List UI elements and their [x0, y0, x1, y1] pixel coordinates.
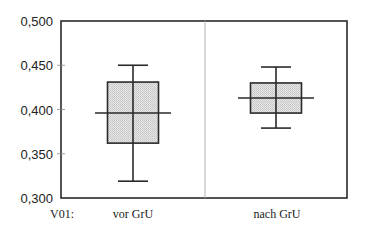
y-tick-label: 0,500 [20, 14, 53, 29]
box-nach-gru [238, 67, 314, 128]
category-label: vor GrU [113, 207, 154, 221]
y-tick-label: 0,400 [20, 103, 53, 118]
box-vor-gru [95, 65, 171, 181]
category-label: nach GrU [254, 207, 301, 221]
row-label: V01: [50, 207, 74, 221]
box-plot-chart: 0,3000,3500,4000,4500,500 V01:vor GrUnac… [0, 0, 365, 233]
plot-border [61, 21, 347, 198]
y-tick-label: 0,350 [20, 147, 53, 162]
x-axis-labels: V01:vor GrUnach GrU [50, 207, 301, 221]
plot-frame [61, 21, 347, 198]
y-tick-label: 0,300 [20, 191, 53, 206]
y-tick-label: 0,450 [20, 58, 53, 73]
y-axis: 0,3000,3500,4000,4500,500 [20, 14, 65, 206]
